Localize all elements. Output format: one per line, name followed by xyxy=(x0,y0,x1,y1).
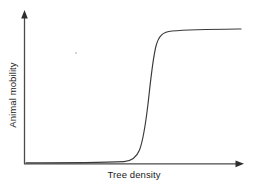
chart-plot-area xyxy=(0,0,256,187)
y-axis-arrowhead xyxy=(21,10,28,19)
scan-artifact-speck xyxy=(75,52,77,54)
x-axis-label: Tree density xyxy=(84,170,184,180)
y-axis-label: Animal mobility xyxy=(8,40,20,150)
chart-figure: Animal mobility Tree density xyxy=(0,0,256,187)
sigmoid-curve xyxy=(26,29,241,163)
x-axis-arrowhead xyxy=(236,160,245,167)
